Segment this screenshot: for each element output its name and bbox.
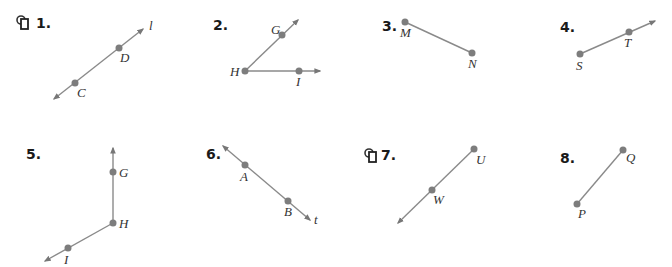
label-line-l: l bbox=[149, 18, 153, 33]
label-point-H: H bbox=[118, 216, 129, 231]
label-point-C: C bbox=[77, 85, 86, 100]
label-point-M: M bbox=[399, 25, 412, 40]
label-point-S: S bbox=[576, 58, 583, 73]
label-point-T: T bbox=[624, 35, 632, 50]
label-point-Q: Q bbox=[626, 150, 636, 165]
label-point-N: N bbox=[467, 56, 478, 71]
label-point-U: U bbox=[476, 152, 487, 167]
label-line-t: t bbox=[314, 212, 318, 227]
label-point-D: D bbox=[119, 50, 130, 65]
label-point-W: W bbox=[433, 192, 445, 207]
geometry-figures: l D C G H I M N S T G H I A B t U W Q P bbox=[0, 0, 672, 267]
label-point-I: I bbox=[295, 74, 301, 89]
label-point-G: G bbox=[119, 165, 129, 180]
label-point-I: I bbox=[63, 252, 69, 267]
label-point-P: P bbox=[577, 206, 586, 221]
label-point-H: H bbox=[229, 64, 240, 79]
label-point-G: G bbox=[271, 22, 281, 37]
label-point-A: A bbox=[239, 169, 248, 184]
label-point-B: B bbox=[284, 204, 292, 219]
